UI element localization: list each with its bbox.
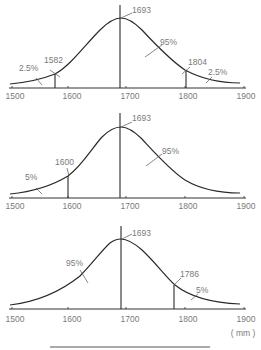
figure: 1500 1600 1700 1800 1900 1693 1582 1804 … [0,0,261,350]
x-tick-label: 1600 [63,314,82,324]
x-tick-label: 1600 [63,91,82,101]
area-annotation: 95% [66,258,83,268]
x-tick-label: 1500 [6,201,25,211]
chart-3: 1500 1600 1700 1800 1900 ( mm ) 1693 178… [6,226,256,338]
leader-line [174,278,181,285]
x-tick-label: 1800 [179,201,198,211]
x-tick-label: 1900 [237,91,256,101]
x-tick-label: 1800 [179,91,198,101]
x-tick-label: 1700 [121,314,140,324]
leader-line [121,122,132,127]
tail-annotation: 2.5% [208,67,228,77]
marker-label: 1804 [188,57,207,67]
x-tick-label: 1900 [237,314,256,324]
tail-annotation: 5% [196,285,209,295]
area-annotation: 95% [160,37,177,47]
x-tick-label: 1900 [237,201,256,211]
marker-label: 1600 [55,157,74,167]
mean-label: 1693 [132,228,151,238]
distribution-curve [10,239,240,305]
mean-label: 1693 [132,5,151,15]
x-tick-label: 1700 [121,91,140,101]
marker-label: 1786 [180,269,199,279]
mean-label: 1693 [132,113,151,123]
x-tick-label: 1800 [179,314,198,324]
distribution-curve [10,18,240,84]
leader-line [67,168,69,176]
x-tick-label: 1600 [63,201,82,211]
x-tick-label: 1500 [6,314,25,324]
distribution-curve [10,127,240,194]
tail-annotation: 5% [25,172,38,182]
leader-line [121,13,132,18]
area-annotation: 95% [162,146,179,156]
leader-line [122,234,132,239]
tail-annotation: 2.5% [19,63,39,73]
marker-label: 1582 [44,55,63,65]
x-tick-label: 1700 [121,201,140,211]
chart-2: 1500 1600 1700 1800 1900 1693 1600 5% 95… [6,113,256,211]
x-tick-label: 1500 [6,91,25,101]
chart-1: 1500 1600 1700 1800 1900 1693 1582 1804 … [6,5,256,101]
unit-label: ( mm ) [231,328,256,338]
leader-line [146,154,162,166]
